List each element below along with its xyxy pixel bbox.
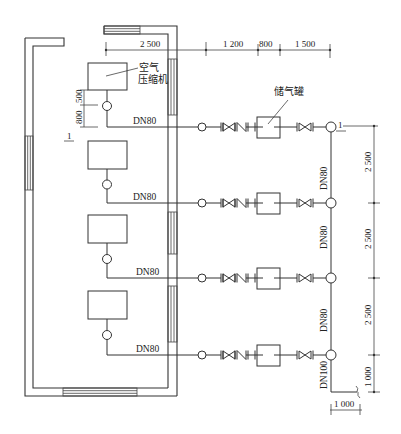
dim-top-1200: 1 200 [223,39,244,49]
window-right-2 [168,212,177,254]
header-pipe-label-3: DN80 [319,309,329,332]
branch-pipe-label: DN80 [133,192,156,202]
svg-text:1: 1 [338,120,343,130]
header-pipe-label-4: DN100 [319,361,329,389]
piping-plan-diagram: 2 500 1 200 800 1 500 空气 压缩机 500 800 1 1… [0,0,401,434]
branch-pipe-label: DN80 [136,267,159,277]
valve-circle-icon [103,331,112,340]
branch-pipe-label: DN80 [133,116,156,126]
dim-left-800: 800 [74,110,84,124]
left-dimension-line: 500 800 [74,89,98,127]
section-mark-left: 1 [64,131,74,141]
window-left [25,136,33,190]
valve-train-row-3 [198,268,336,289]
valve-train-row-4 [198,345,336,366]
dim-right-1000: 1 000 [363,366,373,387]
compressor-label-line1: 空气 [139,61,159,73]
compressor-unit [88,291,127,319]
header-pipe-label-2: DN80 [319,226,329,249]
window-top [104,26,140,34]
valve-train-row-1 [198,117,336,138]
dim-bottom-1000: 1 000 [334,399,355,409]
window-right-3 [168,286,177,342]
dim-top-1500: 1 500 [295,39,316,49]
compressor-label-line2: 压缩机 [138,73,168,85]
window-right-1 [168,59,177,115]
dim-top-800: 800 [259,39,273,49]
svg-text:1: 1 [67,131,72,141]
valve-circle-icon [103,255,112,264]
receiver-label-text: 储气罐 [274,85,304,97]
valve-circle-icon [103,180,112,189]
dim-left-500: 500 [74,89,84,103]
compressor-unit [88,141,127,169]
right-dimension-line: 2 500 2 500 2 500 1 000 [343,125,380,393]
compressor-unit [88,63,127,90]
section-mark-right: 1 [336,120,346,131]
header-pipe-label-1: DN80 [319,167,329,190]
compressor-row-4: DN80 [88,291,198,355]
dim-right-2500-2: 2 500 [363,228,373,249]
top-dimension-line: 2 500 1 200 800 1 500 [105,39,331,58]
dim-top-2500: 2 500 [140,39,161,49]
receiver-label: 储气罐 [268,85,304,124]
dim-right-2500-1: 2 500 [363,151,373,172]
main-header-pipe: DN80 DN80 DN80 DN100 [319,132,360,398]
dim-right-2500-3: 2 500 [363,304,373,325]
bottom-dimension-line: 1 000 [330,399,362,415]
compressor-row-2: DN80 [88,141,198,203]
compressor-label: 空气 压缩机 [106,61,168,85]
valve-train-row-2 [198,193,336,214]
compressor-unit [88,215,127,243]
compressor-row-3: DN80 [88,215,198,278]
branch-pipe-label: DN80 [136,344,159,354]
window-bottom [63,388,137,396]
valve-circle-icon [103,102,112,111]
